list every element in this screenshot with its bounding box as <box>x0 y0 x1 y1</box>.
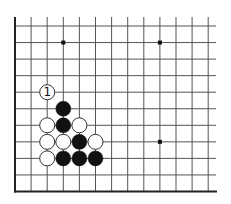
white-stone: 1 <box>40 85 55 100</box>
star-point <box>158 41 162 45</box>
stone-move-number: 1 <box>43 85 51 99</box>
white-stone <box>40 134 55 149</box>
black-stone <box>72 134 87 149</box>
board-edges <box>14 17 217 193</box>
white-stone <box>88 134 103 149</box>
white-stone <box>56 134 71 149</box>
black-stone <box>56 118 71 133</box>
black-stone <box>56 151 71 166</box>
star-point <box>158 140 162 144</box>
star-point <box>61 41 65 45</box>
go-board: 1 <box>0 0 231 204</box>
white-stone <box>40 151 55 166</box>
black-stone <box>72 151 87 166</box>
white-stone <box>72 118 87 133</box>
black-stone <box>88 151 103 166</box>
black-stone <box>56 101 71 116</box>
white-stone <box>40 118 55 133</box>
